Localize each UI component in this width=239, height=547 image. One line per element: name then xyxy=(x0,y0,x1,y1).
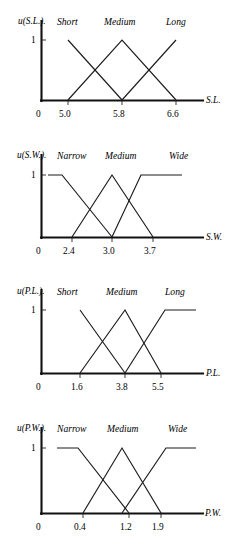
x-tick-label-3: 3.7 xyxy=(144,247,156,256)
y-axis-one-label: 1 xyxy=(31,36,36,45)
x-axis-name-sl: S.L. xyxy=(206,96,220,105)
chart-panel-pw: u(P.W.). Narrow Medium Wide 1 P.W. 0 0.4… xyxy=(0,406,239,547)
membership-label-pw: u(P.W.). xyxy=(17,424,46,433)
x-tick-label-1: 0.4 xyxy=(74,523,86,532)
membership-label-sw: u(S.W.). xyxy=(17,151,46,160)
mf-curve-medium xyxy=(72,175,153,237)
mf-curve-wide xyxy=(122,448,196,513)
x-tick-label-3: 1.9 xyxy=(152,523,164,532)
term-label-narrow: Narrow xyxy=(57,424,87,434)
chart-panel-sw: u(S.W.). Narrow Medium Wide 1 S.W. 0 2.4… xyxy=(0,131,239,268)
x-axis-name-sw: S.W. xyxy=(206,233,222,242)
mf-curve-narrow xyxy=(48,175,112,237)
x-tick-label-0: 0 xyxy=(36,383,41,392)
x-tick-label-3: 5.5 xyxy=(152,383,164,392)
x-tick-label-1: 1.6 xyxy=(71,383,83,392)
x-tick-label-2: 3.8 xyxy=(116,383,128,392)
term-label-medium: Medium xyxy=(104,17,135,27)
term-label-medium: Medium xyxy=(106,287,137,297)
term-label-long: Long xyxy=(165,287,185,297)
term-label-long: Long xyxy=(166,17,186,27)
mf-curve-narrow xyxy=(57,448,129,513)
y-axis-one-label: 1 xyxy=(31,306,36,315)
x-tick-label-2: 1.2 xyxy=(120,523,132,532)
y-axis-one-label: 1 xyxy=(31,171,36,180)
term-label-wide: Wide xyxy=(169,151,188,161)
membership-label-sl: u(S.L.). xyxy=(18,17,46,26)
y-axis-one-label: 1 xyxy=(31,444,36,453)
fuzzy-membership-figure: u(S.L.). Short Medium Long 1 S.L. 0 5.0 … xyxy=(0,0,239,547)
chart-panel-pl: u(P.L.). Short Medium Long 1 P.L. 0 1.6 … xyxy=(0,268,239,406)
x-axis-name-pw: P.W. xyxy=(205,509,221,518)
term-label-narrow: Narrow xyxy=(57,151,87,161)
membership-label-pl: u(P.L.). xyxy=(17,287,44,296)
mf-curve-long xyxy=(125,310,196,373)
mf-curve-medium xyxy=(80,310,161,373)
term-label-short: Short xyxy=(57,17,78,27)
term-label-wide: Wide xyxy=(168,424,187,434)
term-label-short: Short xyxy=(57,287,78,297)
term-label-medium: Medium xyxy=(105,151,136,161)
x-tick-label-2: 3.0 xyxy=(103,247,115,256)
x-tick-label-3: 6.6 xyxy=(167,110,179,119)
x-tick-label-0: 0 xyxy=(36,247,41,256)
x-axis-name-pl: P.L. xyxy=(206,369,220,378)
term-label-medium: Medium xyxy=(107,424,138,434)
mf-curve-medium xyxy=(68,40,176,100)
x-tick-label-1: 2.4 xyxy=(63,247,75,256)
x-tick-label-1: 5.0 xyxy=(59,110,71,119)
x-tick-label-0: 0 xyxy=(36,523,41,532)
x-tick-label-0: 0 xyxy=(36,110,41,119)
chart-panel-sl: u(S.L.). Short Medium Long 1 S.L. 0 5.0 … xyxy=(0,0,239,131)
x-tick-label-2: 5.8 xyxy=(113,110,125,119)
